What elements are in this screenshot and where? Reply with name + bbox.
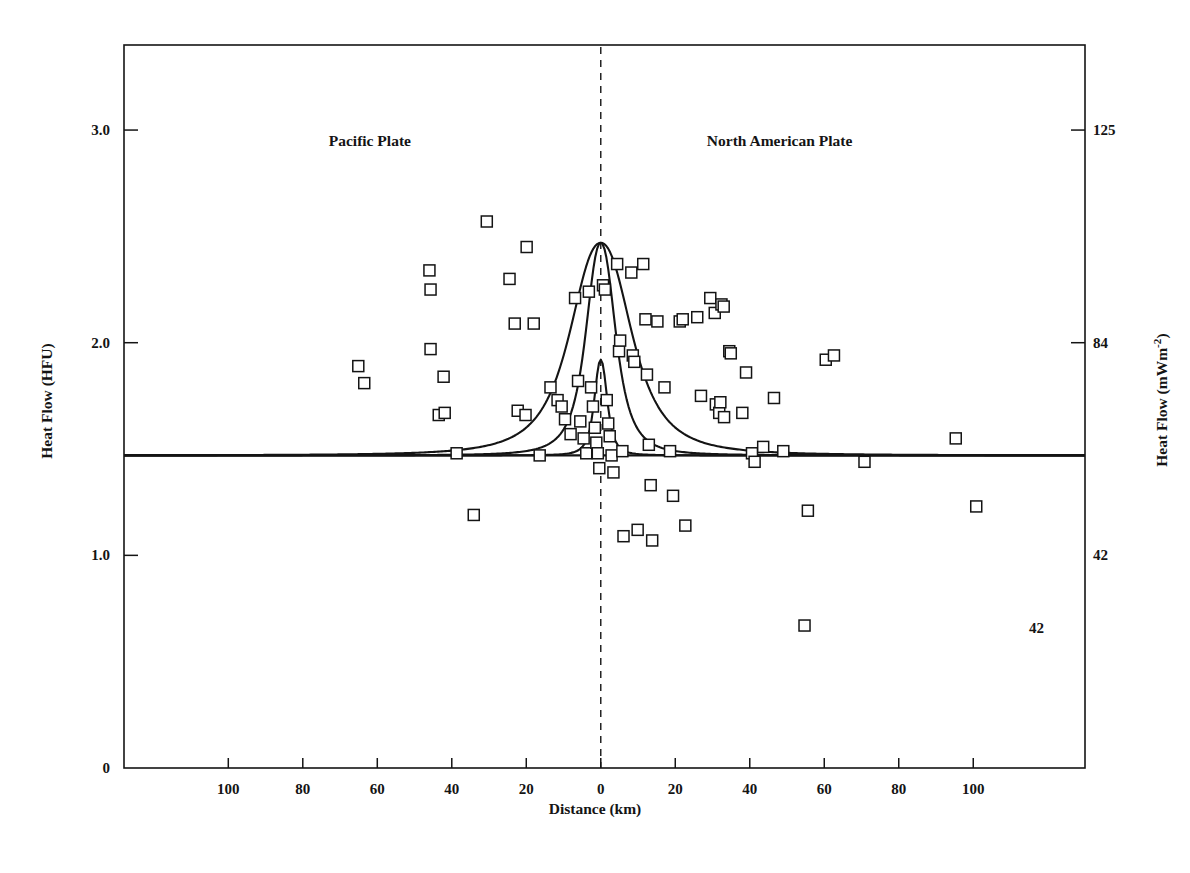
data-point-square bbox=[599, 284, 610, 295]
data-point-square bbox=[534, 450, 545, 461]
data-point-square bbox=[799, 620, 810, 631]
data-point-square bbox=[629, 356, 640, 367]
data-point-square bbox=[504, 273, 515, 284]
plate-label-north-american: North American Plate bbox=[707, 132, 853, 150]
y-tick-label-left: 1.0 bbox=[52, 547, 110, 564]
data-point-square bbox=[705, 293, 716, 304]
data-point-square bbox=[608, 467, 619, 478]
y-axis-right-title-main: Heat Flow (mWm bbox=[1153, 348, 1170, 467]
data-point-square bbox=[565, 429, 576, 440]
data-point-square bbox=[695, 390, 706, 401]
data-point-square bbox=[638, 259, 649, 270]
data-point-square bbox=[451, 448, 462, 459]
data-point-square bbox=[828, 350, 839, 361]
y-tick-label-right: 84 bbox=[1093, 334, 1108, 351]
data-point-square bbox=[570, 293, 581, 304]
x-tick-label: 100 bbox=[962, 781, 985, 798]
data-point-square bbox=[668, 490, 679, 501]
plot-canvas bbox=[0, 0, 1190, 873]
data-point-square bbox=[521, 242, 532, 253]
data-point-square bbox=[768, 392, 779, 403]
x-axis-title: Distance (km) bbox=[0, 800, 1190, 818]
data-point-square bbox=[617, 446, 628, 457]
x-tick-label: 20 bbox=[668, 781, 683, 798]
inner-annotation-42: 42 bbox=[1029, 619, 1044, 636]
data-point-square bbox=[545, 382, 556, 393]
y-axis-right-title-tail: ) bbox=[1153, 333, 1170, 338]
data-point-square bbox=[725, 348, 736, 359]
data-point-square bbox=[468, 509, 479, 520]
data-point-square bbox=[737, 407, 748, 418]
data-point-square bbox=[718, 301, 729, 312]
data-point-square bbox=[528, 318, 539, 329]
data-point-square bbox=[647, 535, 658, 546]
data-point-square bbox=[591, 437, 602, 448]
data-point-square bbox=[573, 375, 584, 386]
data-point-square bbox=[652, 316, 663, 327]
data-point-square bbox=[612, 259, 623, 270]
data-points bbox=[353, 216, 982, 631]
data-point-square bbox=[578, 433, 589, 444]
data-point-square bbox=[971, 501, 982, 512]
data-point-square bbox=[575, 416, 586, 427]
y-tick-label-right: 42 bbox=[1093, 547, 1108, 564]
data-point-square bbox=[758, 441, 769, 452]
data-point-square bbox=[594, 463, 605, 474]
x-tick-label: 0 bbox=[597, 781, 605, 798]
data-point-square bbox=[424, 265, 435, 276]
data-point-square bbox=[353, 361, 364, 372]
data-point-square bbox=[659, 382, 670, 393]
plate-label-pacific: Pacific Plate bbox=[329, 132, 411, 150]
data-point-square bbox=[640, 314, 651, 325]
data-point-square bbox=[606, 450, 617, 461]
data-point-square bbox=[643, 439, 654, 450]
data-point-square bbox=[749, 456, 760, 467]
data-point-square bbox=[583, 286, 594, 297]
data-point-square bbox=[645, 480, 656, 491]
x-tick-label: 60 bbox=[817, 781, 832, 798]
data-point-square bbox=[641, 369, 652, 380]
y-tick-label-left: 0 bbox=[52, 760, 110, 777]
axis-ticks bbox=[124, 130, 1085, 768]
data-point-square bbox=[439, 407, 450, 418]
data-point-square bbox=[604, 431, 615, 442]
data-point-square bbox=[425, 344, 436, 355]
data-point-square bbox=[665, 446, 676, 457]
y-tick-label-right: 125 bbox=[1093, 122, 1116, 139]
data-point-square bbox=[481, 216, 492, 227]
y-axis-right-title-exponent: -2 bbox=[1151, 339, 1163, 348]
data-point-square bbox=[556, 401, 567, 412]
x-tick-label: 20 bbox=[519, 781, 534, 798]
data-point-square bbox=[615, 335, 626, 346]
y-tick-label-left: 3.0 bbox=[52, 122, 110, 139]
data-point-square bbox=[587, 401, 598, 412]
y-tick-label-left: 2.0 bbox=[52, 334, 110, 351]
data-point-square bbox=[592, 448, 603, 459]
x-tick-label: 100 bbox=[217, 781, 240, 798]
data-point-square bbox=[586, 382, 597, 393]
data-point-square bbox=[603, 418, 614, 429]
data-point-square bbox=[520, 410, 531, 421]
x-tick-label: 60 bbox=[370, 781, 385, 798]
data-point-square bbox=[601, 395, 612, 406]
data-point-square bbox=[425, 284, 436, 295]
x-tick-label: 80 bbox=[891, 781, 906, 798]
data-point-square bbox=[677, 314, 688, 325]
data-point-square bbox=[438, 371, 449, 382]
data-point-square bbox=[859, 456, 870, 467]
data-point-square bbox=[589, 422, 600, 433]
y-axis-right-title: Heat Flow (mWm-2) bbox=[1151, 305, 1171, 495]
data-point-square bbox=[632, 524, 643, 535]
data-point-square bbox=[719, 412, 730, 423]
x-tick-label: 80 bbox=[295, 781, 310, 798]
data-point-square bbox=[680, 520, 691, 531]
data-point-square bbox=[626, 267, 637, 278]
heat-flow-figure: Heat Flow (HFU) Heat Flow (mWm-2) Distan… bbox=[0, 0, 1190, 873]
data-point-square bbox=[509, 318, 520, 329]
data-point-square bbox=[359, 378, 370, 389]
x-tick-label: 40 bbox=[742, 781, 757, 798]
data-point-square bbox=[581, 448, 592, 459]
x-tick-label: 40 bbox=[444, 781, 459, 798]
data-point-square bbox=[802, 505, 813, 516]
data-point-square bbox=[950, 433, 961, 444]
